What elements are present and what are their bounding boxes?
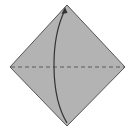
fold-diagram-svg bbox=[0, 0, 133, 133]
paper-square bbox=[10, 5, 125, 126]
origami-diagram bbox=[0, 0, 133, 133]
